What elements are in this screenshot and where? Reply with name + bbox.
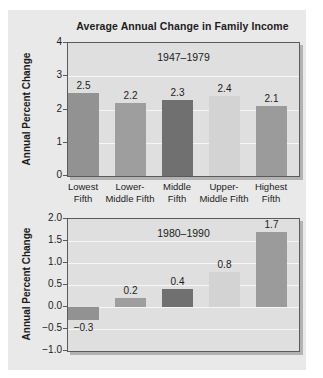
y-tick-mark (63, 218, 67, 219)
bar-value-label: 0.8 (205, 259, 245, 270)
bottom-chart: 1980–1990−0.30.20.40.81.72.01.51.00.50.0… (8, 10, 306, 370)
y-tick-mark (63, 350, 67, 351)
bar (162, 289, 193, 307)
y-tick-mark (63, 284, 67, 285)
y-tick-label: 0.5 (34, 278, 62, 289)
bar-value-label: 0.2 (111, 285, 151, 296)
bar (68, 307, 99, 320)
bar-value-label: 1.7 (252, 219, 292, 230)
figure: Average Annual Change in Family Income 1… (0, 0, 323, 378)
y-tick-mark (63, 240, 67, 241)
y-tick-label: 1.5 (34, 234, 62, 245)
y-tick-mark (63, 328, 67, 329)
gridline (68, 307, 299, 308)
y-tick-mark (63, 306, 67, 307)
y-tick-label: −0.5 (34, 322, 62, 333)
y-axis-title: Annual Percent Change (21, 228, 32, 341)
y-tick-label: 0.0 (34, 300, 62, 311)
y-tick-mark (63, 262, 67, 263)
y-tick-label: −1.0 (34, 344, 62, 355)
chart-panel: Average Annual Change in Family Income 1… (8, 10, 306, 370)
y-tick-label: 2.0 (34, 212, 62, 223)
y-tick-label: 1.0 (34, 256, 62, 267)
bar-value-label: −0.3 (64, 322, 104, 333)
bar (115, 298, 146, 307)
bar (209, 272, 240, 307)
plot-area: 1980–1990−0.30.20.40.81.7 (67, 218, 300, 352)
bar (256, 232, 287, 307)
bar-value-label: 0.4 (158, 276, 198, 287)
